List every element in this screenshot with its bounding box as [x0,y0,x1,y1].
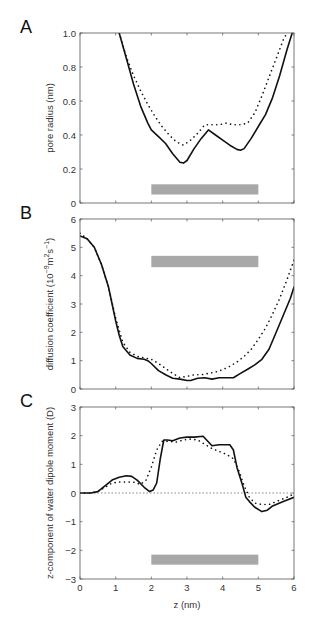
x-tick-label: 0 [77,582,82,593]
panel-b-ylabel: diffusion coefficient (10−9m2s−1) [43,238,55,371]
panel-a-ylabel: pore radius (nm) [44,83,55,153]
panel-c-ylabel: z-component of water dipole moment (D) [44,407,55,579]
y-tick-label: 6 [71,214,76,225]
series-dotted-line [119,33,287,145]
membrane-region-bar [151,184,258,194]
x-tick-label: 6 [291,582,296,593]
x-tick-label: 4 [220,582,225,593]
panel-a-plot: 00.20.40.60.81.0 [63,28,294,209]
series-dotted-line [80,439,294,504]
y-tick-label: 1 [71,459,76,470]
y-tick-label: 0.2 [63,164,76,175]
axes-frame [80,33,294,203]
x-tick-label: 3 [184,582,189,593]
y-tick-label: 0.4 [63,130,76,141]
panel-c-xlabel: z (nm) [174,599,201,610]
x-tick-label: 1 [113,582,118,593]
y-tick-label: 2 [71,430,76,441]
y-tick-label: 0.6 [63,96,76,107]
y-tick-label: −3 [65,574,76,585]
y-tick-label: 3 [71,299,76,310]
panel-c-plot: 0123456−3−2−10123 [65,402,296,594]
panel-b: B 0123456 diffusion coefficient (10−9m2s… [20,203,294,395]
y-tick-label: 1.0 [63,28,76,39]
y-tick-label: 3 [71,402,76,413]
figure: A 00.20.40.60.81.0 pore radius (nm) B 01… [0,0,312,620]
y-tick-label: 1 [71,355,76,366]
y-tick-label: 0.8 [63,62,76,73]
x-tick-label: 2 [149,582,154,593]
panel-a: A 00.20.40.60.81.0 pore radius (nm) [20,17,294,209]
panel-c: C 0123456−3−2−10123 z-component of water… [20,391,297,610]
y-tick-label: 5 [71,242,76,253]
y-tick-label: −2 [65,545,76,556]
y-tick-label: 0 [71,488,76,499]
y-tick-label: −1 [65,516,76,527]
y-tick-label: 0 [71,384,76,395]
membrane-region-bar [151,555,258,565]
y-tick-label: 0 [71,198,76,209]
panel-b-plot: 0123456 [71,214,294,395]
panel-letter-b: B [20,203,32,223]
y-tick-label: 2 [71,327,76,338]
series-solid-line [80,436,294,511]
panel-letter-a: A [20,17,32,37]
membrane-region-bar [151,256,258,267]
y-tick-label: 4 [71,270,76,281]
panel-letter-c: C [20,391,33,411]
x-tick-label: 5 [256,582,261,593]
